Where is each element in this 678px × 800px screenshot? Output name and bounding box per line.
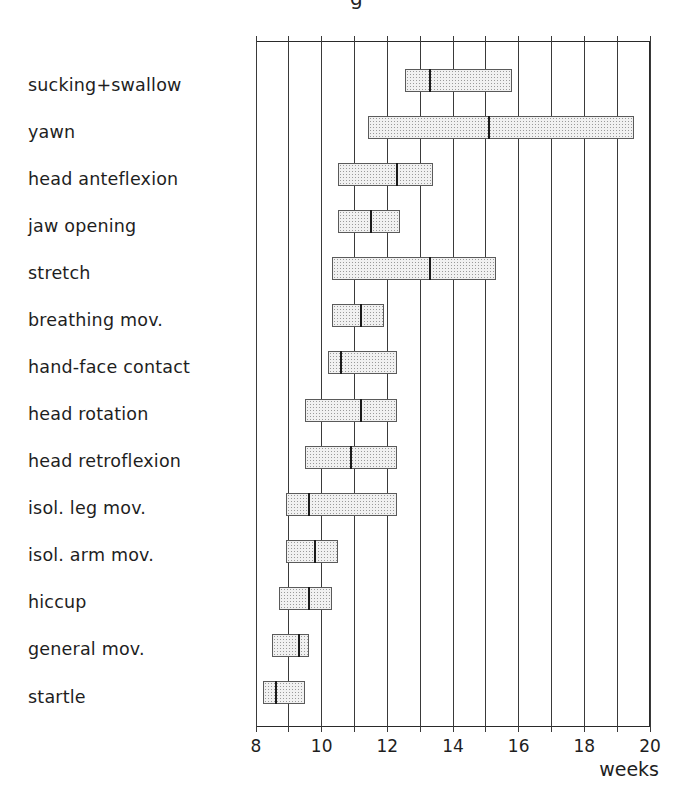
category-label: isol. arm mov. xyxy=(28,543,154,567)
median-marker xyxy=(360,304,362,327)
frame-edge-tick xyxy=(256,36,257,732)
category-label: hand-face contact xyxy=(28,355,190,379)
x-tick-label: 16 xyxy=(499,736,539,756)
median-marker xyxy=(429,69,431,92)
median-marker xyxy=(429,257,431,280)
median-marker xyxy=(308,493,310,516)
category-label: isol. leg mov. xyxy=(28,496,146,520)
range-bar xyxy=(328,351,397,374)
median-marker xyxy=(298,634,300,657)
x-tick-label: 14 xyxy=(433,736,473,756)
x-tick-label: 12 xyxy=(367,736,407,756)
frame-edge-tick xyxy=(650,36,651,732)
category-label: jaw opening xyxy=(28,214,136,238)
category-label: head retroflexion xyxy=(28,449,181,473)
gridline xyxy=(387,36,388,732)
median-marker xyxy=(314,540,316,563)
gridline xyxy=(321,36,322,732)
median-marker xyxy=(350,446,352,469)
gridline xyxy=(485,36,486,732)
range-bar xyxy=(332,257,496,280)
caption-fragment: g xyxy=(350,0,363,10)
range-bar xyxy=(332,304,385,327)
category-label: head anteflexion xyxy=(28,167,178,191)
range-bar xyxy=(305,446,397,469)
gridline xyxy=(288,36,289,732)
range-bar xyxy=(368,116,634,139)
category-label: breathing mov. xyxy=(28,308,163,332)
category-label: sucking+swallow xyxy=(28,73,182,97)
x-tick-label: 18 xyxy=(564,736,604,756)
range-bar xyxy=(286,540,339,563)
median-marker xyxy=(275,681,277,704)
category-labels: sucking+swallowyawnhead anteflexionjaw o… xyxy=(0,0,250,800)
range-bar xyxy=(338,163,433,186)
range-bar xyxy=(263,681,306,704)
median-marker xyxy=(488,116,490,139)
range-bar xyxy=(338,210,400,233)
gridline xyxy=(453,36,454,732)
range-bar xyxy=(405,69,512,92)
category-label: general mov. xyxy=(28,637,145,661)
category-label: stretch xyxy=(28,261,91,285)
x-tick-label: 8 xyxy=(236,736,276,756)
x-tick-label: 10 xyxy=(302,736,342,756)
x-tick-label: 20 xyxy=(630,736,670,756)
range-bar xyxy=(272,634,308,657)
x-axis-title: weeks xyxy=(599,758,659,780)
category-label: hiccup xyxy=(28,590,87,614)
range-bar xyxy=(305,399,397,422)
median-marker xyxy=(340,351,342,374)
category-label: yawn xyxy=(28,120,75,144)
median-marker xyxy=(370,210,372,233)
range-bar xyxy=(286,493,398,516)
category-label: startle xyxy=(28,685,86,709)
median-marker xyxy=(308,587,310,610)
gridline xyxy=(420,36,421,732)
gridline xyxy=(354,36,355,732)
median-marker xyxy=(360,399,362,422)
gridline xyxy=(617,36,618,732)
gridline xyxy=(518,36,519,732)
median-marker xyxy=(396,163,398,186)
gridline xyxy=(551,36,552,732)
gridline xyxy=(584,36,585,732)
category-label: head rotation xyxy=(28,402,148,426)
range-bar xyxy=(279,587,332,610)
